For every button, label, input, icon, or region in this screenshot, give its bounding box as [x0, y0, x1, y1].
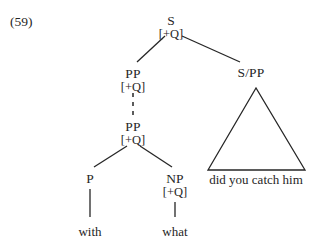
tree-node-p: P — [86, 172, 94, 186]
tree-node-pp-lower-feature: [+Q] — [121, 134, 145, 147]
tree-node-s: S [+Q] — [159, 14, 183, 41]
tree-node-s-category: S — [159, 14, 183, 28]
edge-pp-lower-to-np — [140, 146, 172, 167]
tree-node-np: NP [+Q] — [163, 172, 187, 199]
tree-leaf-what: what — [162, 224, 187, 240]
edge-root-to-s-slash-pp — [182, 36, 240, 62]
tree-node-np-category: NP — [163, 172, 187, 186]
edge-pp-lower-to-p — [94, 146, 127, 167]
tree-node-pp-upper-category: PP — [121, 67, 145, 81]
tree-node-s-slash-pp: S/PP — [237, 66, 264, 80]
tree-node-pp-lower-category: PP — [121, 120, 145, 134]
tree-node-pp-upper-feature: [+Q] — [121, 81, 145, 94]
tree-node-pp-lower: PP [+Q] — [121, 120, 145, 147]
tree-node-np-feature: [+Q] — [163, 186, 187, 199]
syntax-tree-figure: (59) S [+Q] PP [+Q] PP [+Q] P NP [+Q] S/… — [0, 0, 322, 250]
gloss-triangle — [208, 88, 305, 170]
tree-node-p-category: P — [86, 172, 94, 186]
tree-node-pp-upper: PP [+Q] — [121, 67, 145, 94]
tree-leaf-with: with — [78, 224, 101, 240]
tree-node-s-slash-pp-category: S/PP — [237, 66, 264, 80]
tree-node-s-feature: [+Q] — [159, 28, 183, 41]
triangle-gloss-text: did you catch him — [209, 172, 303, 188]
